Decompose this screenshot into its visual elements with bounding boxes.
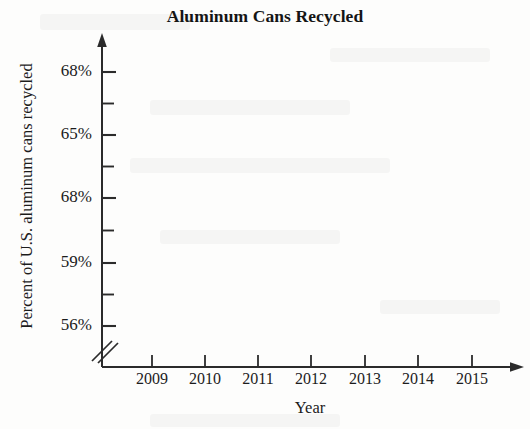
x-tick-label: 2011 [228,370,288,388]
x-tick-label: 2013 [335,370,395,388]
y-tick-label: 56% [30,315,92,335]
y-tick-label: 68% [30,61,92,81]
x-tick-label: 2009 [122,370,182,388]
y-axis-line [97,33,107,344]
y-major-ticks [102,72,116,326]
axis-break-icon [92,341,118,363]
x-ticks [152,355,472,367]
x-axis-line [102,344,524,372]
y-tick-label: 65% [30,124,92,144]
x-tick-label: 2012 [281,370,341,388]
y-tick-label: 68% [30,187,92,207]
y-tick-label: 59% [30,252,92,272]
chart-figure: Aluminum Cans Recycled [0,0,530,429]
x-axis-title: Year [255,398,365,418]
x-tick-label: 2015 [442,370,502,388]
gridlines [112,72,524,326]
x-tick-label: 2010 [175,370,235,388]
x-tick-label: 2014 [388,370,448,388]
